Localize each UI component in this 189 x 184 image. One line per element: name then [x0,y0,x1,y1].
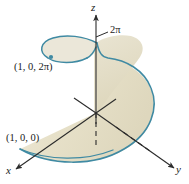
x-axis-label: x [6,165,11,176]
y-axis-label: y [176,164,181,175]
helicoid-svg [0,0,189,184]
helicoid-lower-sheet [20,60,154,162]
two-pi-tick [96,32,108,37]
helicoid-figure: z x y 2π (1, 0, 2π) (1, 0, 0) [0,0,189,184]
z-axis-label: z [91,2,95,13]
z-tick-2pi-label: 2π [110,25,121,36]
point-marker-top [49,55,53,59]
point-label-top: (1, 0, 2π) [14,62,53,73]
point-label-bottom: (1, 0, 0) [6,133,39,144]
y-axis-stub [74,98,96,113]
